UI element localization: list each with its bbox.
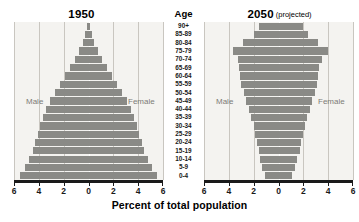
bar-female-1950-90+ (89, 23, 90, 30)
bar-male-2050-20-24 (257, 139, 278, 146)
tick-label-1950--4: 4 (36, 186, 41, 196)
bar-female-1950-30-34 (89, 122, 137, 129)
bar-male-1950-10-14 (29, 156, 89, 163)
bar-row (204, 172, 353, 180)
tick-label-1950-2: 2 (111, 186, 116, 196)
tick-label-1950-6: 6 (161, 186, 166, 196)
bar-female-2050-20-24 (279, 139, 301, 146)
tick-label-2050-6: 6 (351, 186, 356, 196)
bar-row (204, 22, 353, 30)
bar-row (14, 39, 163, 47)
bar-female-2050-40-44 (279, 106, 310, 113)
bar-row (204, 163, 353, 171)
bar-female-1950-85-89 (89, 31, 92, 38)
age-label-5-9: 5-9 (163, 163, 204, 171)
bar-female-1950-45-49 (89, 97, 127, 104)
bar-row (204, 55, 353, 63)
x-axis-title: Percent of total population (0, 199, 359, 211)
bar-male-2050-65-69 (239, 64, 279, 71)
bar-male-1950-15-19 (33, 147, 89, 154)
bar-female-1950-65-69 (89, 64, 108, 71)
bar-row (14, 30, 163, 38)
bar-male-2050-15-19 (259, 147, 279, 154)
age-label-0-4: 0-4 (163, 172, 204, 180)
bar-male-2050-40-44 (249, 106, 279, 113)
age-label-column: 90+85-8980-8475-7970-7465-6960-6455-5950… (163, 22, 204, 180)
bar-male-2050-70-74 (238, 56, 279, 63)
bar-row (204, 147, 353, 155)
age-label-35-39: 35-39 (163, 113, 204, 121)
bar-female-1950-60-64 (89, 72, 113, 79)
bar-female-2050-70-74 (279, 56, 322, 63)
bar-row (14, 155, 163, 163)
bar-female-1950-20-24 (89, 139, 142, 146)
bar-female-2050-85-89 (279, 31, 309, 38)
bar-row (14, 113, 163, 121)
bar-female-2050-80-84 (279, 39, 319, 46)
bar-row (204, 113, 353, 121)
bar-male-2050-80-84 (243, 39, 279, 46)
bar-male-1950-50-54 (55, 89, 89, 96)
female-label-1950: Female (128, 97, 155, 106)
bar-female-2050-5-9 (279, 164, 295, 171)
age-label-55-59: 55-59 (163, 80, 204, 88)
tick-label-2050-4: 4 (326, 186, 331, 196)
bar-row (14, 172, 163, 180)
bar-female-1950-10-14 (89, 156, 149, 163)
population-pyramid-figure: 1950 2050(projected) Age 90+85-8980-8475… (0, 0, 359, 222)
bar-male-1950-20-24 (35, 139, 88, 146)
bar-female-2050-35-39 (279, 114, 308, 121)
bar-row (204, 30, 353, 38)
bar-female-2050-50-54 (279, 89, 315, 96)
tick-label-2050--2: 2 (251, 186, 256, 196)
bar-male-1950-55-59 (60, 81, 89, 88)
age-label-75-79: 75-79 (163, 47, 204, 55)
panel-title-1950: 1950 (0, 8, 163, 20)
bar-female-2050-55-59 (279, 81, 317, 88)
bar-female-2050-60-64 (279, 72, 319, 79)
age-label-85-89: 85-89 (163, 30, 204, 38)
bar-row (14, 138, 163, 146)
bar-male-2050-60-64 (240, 72, 278, 79)
bar-male-2050-25-29 (255, 131, 279, 138)
bar-male-1950-40-44 (46, 106, 88, 113)
bar-female-1950-50-54 (89, 89, 123, 96)
bar-row (204, 47, 353, 55)
bar-row (204, 89, 353, 97)
bar-row (14, 22, 163, 30)
bar-row (204, 138, 353, 146)
tick-label-2050--4: 4 (226, 186, 231, 196)
age-label-20-24: 20-24 (163, 138, 204, 146)
bar-female-2050-10-14 (279, 156, 298, 163)
bar-male-2050-0-4 (265, 172, 279, 179)
bar-row (204, 39, 353, 47)
bar-female-2050-0-4 (279, 172, 293, 179)
age-label-80-84: 80-84 (163, 39, 204, 47)
bar-row (14, 80, 163, 88)
bar-row (14, 122, 163, 130)
age-label-15-19: 15-19 (163, 147, 204, 155)
bar-female-2050-45-49 (279, 97, 313, 104)
bar-female-1950-80-84 (89, 39, 95, 46)
bar-male-2050-90+ (259, 23, 279, 30)
bar-female-1950-70-74 (89, 56, 103, 63)
bar-male-1950-65-69 (70, 64, 89, 71)
tick-label-1950--2: 2 (61, 186, 66, 196)
bar-male-2050-85-89 (254, 31, 279, 38)
age-label-40-44: 40-44 (163, 105, 204, 113)
age-label-10-14: 10-14 (163, 155, 204, 163)
bar-row (14, 55, 163, 63)
male-label-2050: Male (216, 97, 233, 106)
bar-female-1950-40-44 (89, 106, 131, 113)
tick-label-2050--6: 6 (202, 186, 207, 196)
panel-title-1950-text: 1950 (68, 8, 94, 20)
female-label-2050: Female (318, 97, 345, 106)
bar-female-2050-65-69 (279, 64, 320, 71)
bar-male-1950-25-29 (38, 131, 89, 138)
bar-row (204, 64, 353, 72)
tick-label-1950--6: 6 (12, 186, 17, 196)
bar-female-1950-0-4 (89, 172, 157, 179)
male-label-1950: Male (26, 97, 43, 106)
age-column-header: Age (163, 8, 204, 19)
bar-female-2050-75-79 (279, 47, 329, 54)
